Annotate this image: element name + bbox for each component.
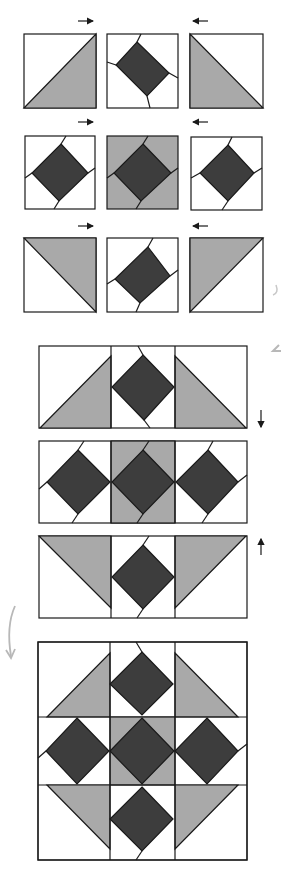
square-in-square-unit (107, 238, 178, 312)
curved-arrow-icon (273, 285, 277, 295)
curved-arrow-icon (9, 606, 15, 656)
step1-units (24, 21, 263, 312)
sewn-row-1 (39, 346, 247, 428)
hst-unit (190, 34, 263, 108)
sewn-row-3 (39, 536, 247, 618)
sewn-row-2 (39, 441, 247, 523)
square-in-square-unit (191, 137, 262, 210)
step2-rows (39, 346, 261, 618)
hst-unit (24, 34, 96, 108)
hst-unit (190, 238, 263, 312)
square-in-square-unit (25, 136, 95, 209)
quilt-assembly-diagram (0, 0, 281, 878)
completed-block (38, 642, 247, 860)
square-in-square-unit (107, 34, 178, 108)
curved-arrow-icon (273, 345, 281, 351)
square-in-square-unit-gray (107, 136, 178, 209)
hst-unit (24, 238, 96, 312)
